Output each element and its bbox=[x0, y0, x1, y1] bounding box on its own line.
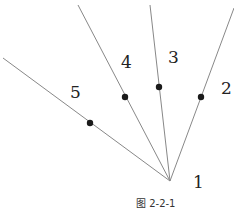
point-on-ray-5 bbox=[87, 120, 93, 126]
point-on-ray-2 bbox=[198, 94, 204, 100]
label-ray-3: 3 bbox=[168, 49, 179, 66]
label-ray-5: 5 bbox=[70, 84, 81, 101]
point-on-ray-3 bbox=[156, 84, 162, 90]
diagram-canvas: 2 3 4 5 1 图 2-2-1 bbox=[0, 0, 234, 212]
ray-3 bbox=[150, 5, 170, 181]
figure-caption: 图 2-2-1 bbox=[136, 195, 175, 210]
label-ray-4: 4 bbox=[121, 54, 132, 71]
point-on-ray-4 bbox=[122, 94, 128, 100]
label-origin-1: 1 bbox=[193, 174, 204, 191]
label-ray-2: 2 bbox=[221, 80, 232, 97]
ray-4 bbox=[78, 5, 170, 181]
ray-5 bbox=[3, 58, 170, 181]
